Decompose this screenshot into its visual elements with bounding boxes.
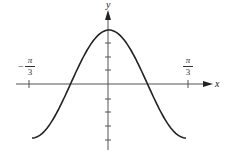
x-axis-arrow-icon [203, 81, 213, 87]
cosine-graph [0, 0, 231, 162]
y-axis-label: y [106, 0, 110, 10]
left-tick-label: π 3 [25, 56, 35, 77]
right-tick-denominator: 3 [183, 67, 193, 77]
left-tick-numerator: π [25, 56, 35, 67]
left-tick-denominator: 3 [25, 67, 35, 77]
x-axis-label: x [215, 79, 219, 89]
left-tick-minus: − [18, 61, 24, 72]
right-tick-label: π 3 [183, 56, 193, 77]
y-axis-arrow-icon [105, 10, 111, 20]
right-tick-numerator: π [183, 56, 193, 67]
